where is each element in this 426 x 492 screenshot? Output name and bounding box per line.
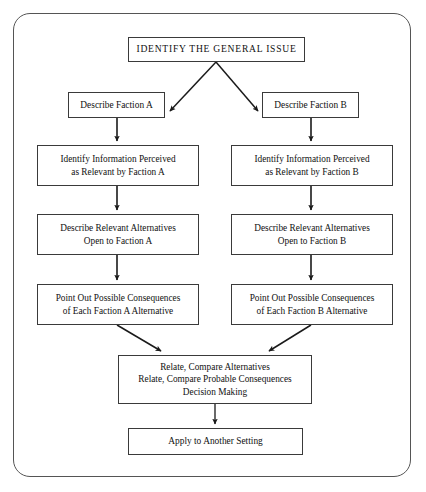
node-consequences-faction-a[interactable]: Point Out Possible Consequences of Each … bbox=[37, 284, 199, 325]
node-text: Point Out Possible Consequences of Each … bbox=[236, 292, 388, 317]
node-line: Point Out Possible Consequences bbox=[42, 292, 194, 304]
node-line: Decision Making bbox=[123, 386, 307, 398]
node-line: Describe Relevant Alternatives bbox=[42, 222, 194, 234]
node-text: Identify Information Perceived as Releva… bbox=[42, 153, 194, 178]
node-line: Describe Relevant Alternatives bbox=[236, 222, 388, 234]
node-text: Describe Relevant Alternatives Open to F… bbox=[236, 222, 388, 247]
node-line: Open to Faction B bbox=[236, 235, 388, 247]
node-line: Describe Faction B bbox=[267, 99, 354, 111]
node-line: Describe Faction A bbox=[73, 99, 160, 111]
node-describe-alternatives-faction-b[interactable]: Describe Relevant Alternatives Open to F… bbox=[231, 214, 393, 255]
node-line: Point Out Possible Consequences bbox=[236, 292, 388, 304]
node-text: Relate, Compare Alternatives Relate, Com… bbox=[123, 361, 307, 398]
node-line: of Each Faction A Alternative bbox=[42, 305, 194, 317]
node-text: Describe Faction B bbox=[267, 99, 354, 111]
node-apply-to-another-setting[interactable]: Apply to Another Setting bbox=[128, 428, 303, 455]
flowchart-page: IDENTIFY THE GENERAL ISSUE Describe Fact… bbox=[0, 0, 426, 492]
node-text: Describe Relevant Alternatives Open to F… bbox=[42, 222, 194, 247]
node-text: Point Out Possible Consequences of Each … bbox=[42, 292, 194, 317]
node-identify-information-faction-a[interactable]: Identify Information Perceived as Releva… bbox=[37, 145, 199, 186]
node-identify-information-faction-b[interactable]: Identify Information Perceived as Releva… bbox=[231, 145, 393, 186]
node-text: IDENTIFY THE GENERAL ISSUE bbox=[133, 43, 300, 56]
node-line: Open to Faction A bbox=[42, 235, 194, 247]
node-describe-faction-a[interactable]: Describe Faction A bbox=[68, 92, 165, 118]
node-text: Apply to Another Setting bbox=[133, 435, 298, 447]
node-text: Describe Faction A bbox=[73, 99, 160, 111]
node-line: Identify Information Perceived bbox=[42, 153, 194, 165]
node-consequences-faction-b[interactable]: Point Out Possible Consequences of Each … bbox=[231, 284, 393, 325]
node-line: Apply to Another Setting bbox=[133, 435, 298, 447]
node-text: Identify Information Perceived as Releva… bbox=[236, 153, 388, 178]
node-synthesis-decision-making[interactable]: Relate, Compare Alternatives Relate, Com… bbox=[118, 355, 312, 404]
node-line: of Each Faction B Alternative bbox=[236, 305, 388, 317]
node-line: as Relevant by Faction A bbox=[42, 166, 194, 178]
node-line: IDENTIFY THE GENERAL ISSUE bbox=[133, 43, 300, 56]
node-line: Relate, Compare Alternatives bbox=[123, 361, 307, 373]
node-line: Relate, Compare Probable Consequences bbox=[123, 373, 307, 385]
node-line: Identify Information Perceived bbox=[236, 153, 388, 165]
node-line: as Relevant by Faction B bbox=[236, 166, 388, 178]
node-identify-general-issue[interactable]: IDENTIFY THE GENERAL ISSUE bbox=[128, 37, 305, 62]
node-describe-faction-b[interactable]: Describe Faction B bbox=[262, 92, 359, 118]
node-describe-alternatives-faction-a[interactable]: Describe Relevant Alternatives Open to F… bbox=[37, 214, 199, 255]
